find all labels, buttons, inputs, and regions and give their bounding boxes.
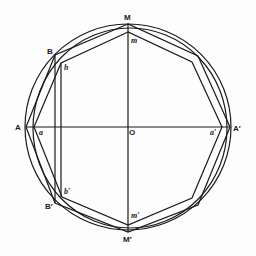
label-B: B xyxy=(47,47,53,56)
label-M: M xyxy=(124,13,131,22)
label-b-prime: b′ xyxy=(64,187,70,196)
label-M-prime: M′ xyxy=(123,235,132,244)
geometry-diagram: M m B h A a O a′ A′ b′ B′ m′ M′ xyxy=(0,0,256,256)
label-a-prime: a′ xyxy=(210,128,216,137)
label-h: h xyxy=(64,63,69,72)
label-A: A xyxy=(15,123,21,132)
diagram-canvas: M m B h A a O a′ A′ b′ B′ m′ M′ xyxy=(0,0,256,256)
label-A-prime: A′ xyxy=(233,124,241,133)
label-m: m xyxy=(131,36,137,45)
label-a: a xyxy=(39,128,43,137)
label-O: O xyxy=(129,128,135,137)
label-m-prime: m′ xyxy=(131,211,139,220)
label-B-prime: B′ xyxy=(45,202,53,211)
